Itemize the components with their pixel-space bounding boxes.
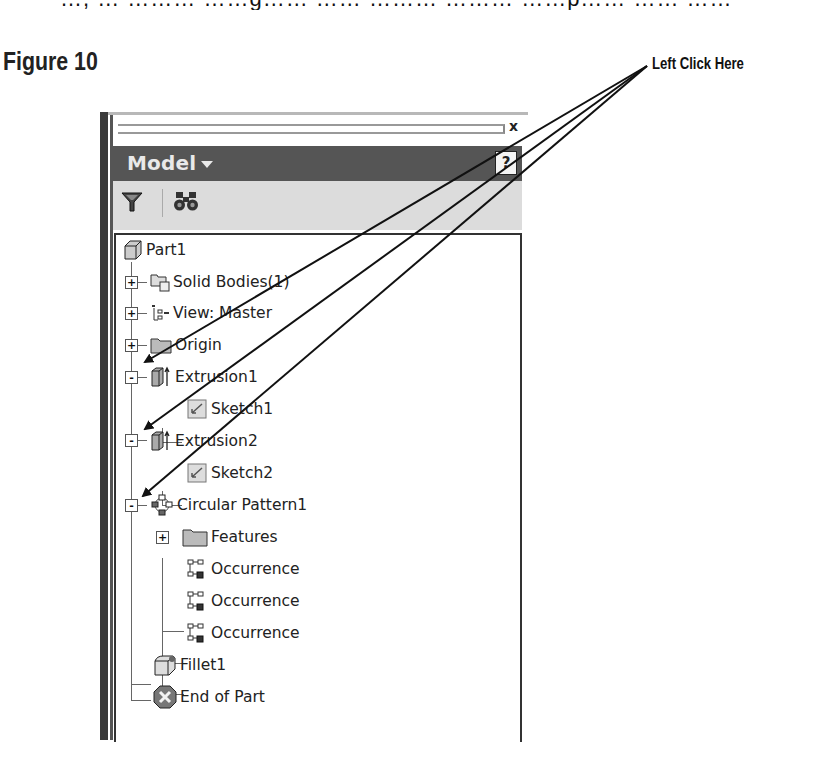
occurrence-icon — [186, 622, 208, 644]
occurrence-icon — [186, 558, 208, 580]
model-title: Model — [127, 151, 196, 175]
help-icon: ? — [502, 154, 511, 172]
tree-line — [162, 631, 184, 632]
tree-item-label: View: Master — [173, 304, 272, 322]
caret-down-icon — [201, 161, 213, 168]
find-button[interactable] — [173, 190, 199, 216]
tree-item-label: Extrusion1 — [175, 368, 258, 386]
tree-line — [131, 700, 151, 701]
tree-item-part1[interactable]: Part1 — [123, 238, 186, 262]
close-button[interactable]: x — [509, 116, 518, 136]
tree-item-label: Part1 — [146, 241, 186, 259]
circular-pattern-icon — [150, 494, 174, 516]
tree-item-sketch1[interactable]: Sketch1 — [186, 397, 273, 421]
help-button[interactable]: ? — [495, 151, 517, 175]
tree-item-label: Extrusion2 — [175, 432, 258, 450]
tree-item-origin[interactable]: Origin — [150, 333, 222, 357]
view-icon — [150, 302, 170, 324]
tree-item-label: Origin — [175, 336, 222, 354]
model-dropdown[interactable]: Model — [127, 151, 213, 175]
model-tree: + + + - - - + Part1 Solid Bodies(1) View… — [114, 233, 522, 742]
tree-item-solid-bodies[interactable]: Solid Bodies(1) — [150, 270, 290, 294]
collapse-toggle-circular-pattern[interactable]: - — [125, 499, 138, 512]
tree-item-view-master[interactable]: View: Master — [150, 301, 272, 325]
binoculars-icon — [173, 190, 199, 212]
expand-toggle-view[interactable]: + — [125, 307, 138, 320]
tree-item-label: Features — [211, 528, 278, 546]
tree-line — [131, 684, 151, 685]
tree-item-occurrence-3[interactable]: Occurrence — [186, 621, 300, 645]
tree-item-sketch2[interactable]: Sketch2 — [186, 461, 273, 485]
model-browser-panel: x Model ? + + + - - — [100, 112, 528, 740]
tree-item-label: Circular Pattern1 — [177, 496, 307, 514]
fillet-icon — [153, 653, 177, 677]
panel-top-border — [108, 112, 528, 115]
tree-item-occurrence-2[interactable]: Occurrence — [186, 589, 300, 613]
tree-item-label: End of Part — [180, 688, 265, 706]
panel-header: Model ? — [113, 146, 522, 181]
browser-toolbar — [113, 181, 522, 230]
solid-bodies-icon — [150, 271, 170, 293]
cropped-body-text: …, … ……… ……g…… …… ……… ……… ……p…… …… …… — [60, 0, 780, 10]
tree-item-fillet1[interactable]: Fillet1 — [153, 653, 226, 677]
tree-item-label: Sketch1 — [211, 400, 273, 418]
sketch-icon — [186, 462, 208, 484]
expand-toggle-origin[interactable]: + — [125, 339, 138, 352]
tree-item-features[interactable]: Features — [182, 525, 278, 549]
tree-item-label: Occurrence — [211, 624, 300, 642]
panel-left-border — [100, 112, 108, 740]
folder-icon — [182, 526, 208, 548]
figure-title: Figure 10 — [3, 46, 98, 77]
funnel-icon — [121, 191, 143, 213]
tree-item-extrusion2[interactable]: Extrusion2 — [150, 429, 258, 453]
expand-toggle-features[interactable]: + — [156, 531, 169, 544]
callout-label: Left Click Here — [652, 55, 744, 73]
filter-button[interactable] — [121, 191, 143, 217]
part-icon — [123, 239, 143, 261]
tree-item-label: Solid Bodies(1) — [173, 273, 290, 291]
collapse-toggle-extrusion2[interactable]: - — [125, 434, 138, 447]
tree-item-circular-pattern1[interactable]: Circular Pattern1 — [150, 493, 307, 517]
tree-item-label: Occurrence — [211, 560, 300, 578]
tree-item-label: Fillet1 — [180, 656, 226, 674]
end-of-part-icon — [153, 685, 177, 709]
tree-line — [131, 262, 132, 701]
sketch-icon — [186, 398, 208, 420]
extrusion-icon — [150, 430, 172, 452]
tree-item-occurrence-1[interactable]: Occurrence — [186, 557, 300, 581]
collapse-toggle-extrusion1[interactable]: - — [125, 371, 138, 384]
tree-item-end-of-part[interactable]: End of Part — [153, 685, 265, 709]
tree-item-label: Occurrence — [211, 592, 300, 610]
expand-toggle-solid-bodies[interactable]: + — [125, 276, 138, 289]
tree-item-label: Sketch2 — [211, 464, 273, 482]
panel-gripper[interactable] — [118, 124, 505, 134]
tree-item-extrusion1[interactable]: Extrusion1 — [150, 365, 258, 389]
close-icon: x — [509, 118, 518, 134]
extrusion-icon — [150, 366, 172, 388]
folder-icon — [150, 334, 172, 356]
toolbar-separator — [162, 189, 163, 217]
occurrence-icon — [186, 590, 208, 612]
